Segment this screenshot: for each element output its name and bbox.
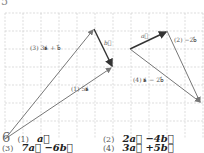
label-item1: (1) 5a⃗ [71, 85, 89, 92]
label-item4: (4) a⃗ − 2b⃗ [133, 76, 164, 83]
label-b-left: b⃗ [104, 39, 112, 47]
answer-4: (4) 3a⃗ +5b⃗ [103, 142, 174, 153]
label-item3: (3) 3a⃗ + b⃗ [30, 44, 61, 51]
answer-3-index: (3) [2, 144, 13, 153]
answer-4-expr: 3a⃗ +5b⃗ [123, 142, 174, 153]
label-item2: (2) −2b⃗ [174, 36, 197, 43]
vector-b-left [94, 29, 112, 66]
answer-3: (3) 7a⃗ −6b⃗ [2, 142, 73, 153]
answer-3-expr: 7a⃗ −6b⃗ [22, 142, 73, 153]
label-a-right: a⃗ [141, 32, 149, 40]
grid [5, 13, 203, 139]
answer-4-index: (4) [103, 144, 114, 153]
vector-5a [5, 68, 111, 139]
